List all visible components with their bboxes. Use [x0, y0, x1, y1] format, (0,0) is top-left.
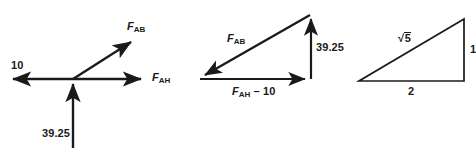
diagram1-group [13, 42, 141, 148]
triangle2-hypotenuse [205, 15, 310, 75]
label-fah-base: F [152, 71, 159, 83]
label-fab-base: F [127, 20, 134, 32]
label-left-force-10: 10 [11, 60, 23, 71]
diagram3-group [359, 19, 464, 81]
label-fah-subscript: AH [159, 76, 171, 85]
label-fab-diagram2: FAB [227, 33, 245, 44]
label-fab2-base: F [227, 32, 234, 44]
label-fah-diagram1: FAH [152, 72, 170, 83]
radicand-value: 5 [404, 32, 411, 45]
arrow-diagonal-fab [73, 42, 131, 79]
label-vertical-force-3925: 39.25 [42, 128, 70, 139]
label-fab2-subscript: AB [234, 37, 246, 46]
label-fah2-subscript: AH [239, 90, 251, 99]
label-sqrt5: √5 [398, 32, 411, 45]
label-fab-subscript: AB [134, 25, 146, 34]
label-fah2-operator: – 10 [250, 85, 275, 97]
figure-canvas: 10 FAB FAH 39.25 FAB 39.25 FAH – 10 √5 1… [0, 0, 476, 148]
label-triangle3-side-1: 1 [470, 44, 476, 55]
triangle3-outline [359, 19, 464, 81]
vector-diagram-svg [0, 0, 476, 148]
label-fah-minus-10: FAH – 10 [232, 86, 275, 97]
label-fab-diagram1: FAB [127, 21, 145, 32]
diagram2-group [200, 15, 311, 79]
label-vertical-side-3925: 39.25 [316, 42, 344, 53]
label-triangle3-side-2: 2 [408, 86, 414, 97]
label-fah2-base: F [232, 85, 239, 97]
